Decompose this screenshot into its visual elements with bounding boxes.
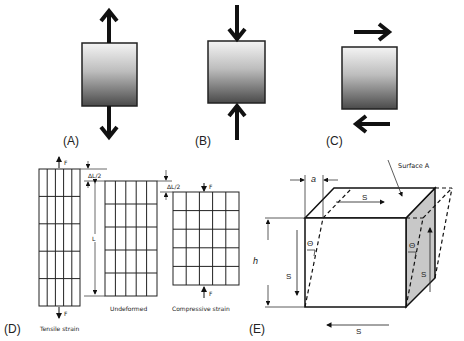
caption-compressive: Compressive strain	[172, 305, 230, 313]
panel-a-label: (A)	[63, 134, 79, 148]
arrow-down-icon	[229, 5, 245, 39]
force-label: F	[209, 290, 213, 297]
panel-c: (C)	[326, 24, 397, 148]
force-label: F	[209, 183, 213, 190]
block-c	[342, 47, 397, 109]
block-a	[82, 43, 137, 106]
theta-label: Θ	[409, 241, 415, 250]
arrow-up-icon	[229, 106, 245, 140]
arrow-left-icon	[356, 116, 390, 132]
theta-label: Θ	[307, 239, 313, 248]
panel-c-label: (C)	[326, 134, 343, 148]
arrow-up-icon	[101, 11, 117, 43]
s-label-side: S	[421, 270, 426, 279]
force-label: F	[64, 310, 68, 317]
delta-l-label: ΔL/2	[167, 183, 180, 190]
caption-undeformed: Undeformed	[110, 305, 147, 312]
caption-tensile: Tensile strain	[39, 325, 79, 332]
undeformed-grid	[105, 181, 157, 296]
s-label-bottom: S	[356, 327, 361, 336]
a-label: a	[311, 174, 316, 184]
s-label-top: S	[362, 193, 367, 202]
panel-e-label: (E)	[249, 322, 265, 336]
delta-l-label: ΔL/2	[88, 172, 101, 179]
panel-e	[265, 160, 452, 325]
compressive-grid	[173, 192, 239, 285]
block-b	[208, 41, 265, 103]
surface-a-label: Surface A	[398, 162, 430, 170]
tensile-grid	[39, 169, 80, 306]
panel-b: (B)	[195, 5, 265, 148]
arrow-right-icon	[354, 24, 389, 40]
force-label: F	[64, 159, 68, 166]
stress-strain-diagram: (A) (B) (C)	[0, 0, 464, 341]
panel-b-label: (B)	[195, 134, 211, 148]
panel-a: (A)	[63, 11, 137, 148]
h-label: h	[253, 256, 258, 266]
dimension-h	[265, 218, 305, 307]
arrow-down-icon	[101, 106, 117, 137]
s-label-left: S	[286, 272, 291, 281]
panel-d-label: (D)	[4, 322, 21, 336]
